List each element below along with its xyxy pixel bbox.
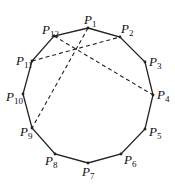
- vertex-p4: [152, 94, 155, 97]
- dashed-segment-p12-p4: [54, 36, 153, 95]
- vertex-label-p4: P4: [156, 87, 170, 104]
- vertex-p3: [144, 61, 147, 64]
- vertex-p9: [31, 127, 34, 130]
- vertex-label-p11: P11: [15, 53, 33, 70]
- vertex-label-p10: P10: [5, 89, 23, 106]
- vertex-p6: [120, 153, 123, 156]
- vertex-p2: [119, 36, 122, 39]
- vertex-p10: [22, 93, 25, 96]
- vertex-labels: P1P2P3P4P5P6P7P8P9P10P11P12: [5, 12, 170, 181]
- vertex-label-p1: P1: [83, 12, 96, 29]
- dashed-diagonals: [32, 28, 153, 128]
- vertex-label-p2: P2: [120, 21, 133, 38]
- vertex-label-p3: P3: [148, 54, 162, 71]
- vertex-p8: [54, 153, 57, 156]
- dashed-segment-p11-p2: [32, 37, 120, 61]
- vertex-label-p12: P12: [41, 22, 59, 39]
- vertex-label-p5: P5: [148, 124, 162, 141]
- vertex-label-p6: P6: [123, 152, 137, 169]
- dodecagon-diagram: P1P2P3P4P5P6P7P8P9P10P11P12: [0, 0, 175, 193]
- vertex-label-p7: P7: [81, 164, 95, 181]
- dashed-segment-p1-p9: [32, 28, 88, 128]
- vertex-label-p9: P9: [19, 124, 33, 141]
- vertex-points: [22, 27, 155, 165]
- vertex-p5: [144, 128, 147, 131]
- vertex-p1: [87, 27, 90, 30]
- dodecagon-outline: [23, 28, 153, 163]
- vertex-label-p8: P8: [44, 153, 58, 170]
